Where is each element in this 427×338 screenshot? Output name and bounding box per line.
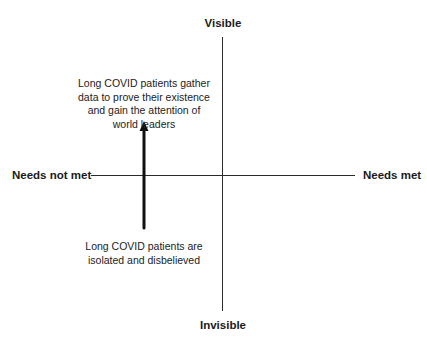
axis-label-visible: Visible (0, 16, 427, 30)
axis-label-invisible: Invisible (0, 318, 427, 332)
annotation-isolated: Long COVID patients are isolated and dis… (74, 240, 214, 267)
quadrant-diagram: Visible Invisible Needs not met Needs me… (0, 0, 427, 338)
axis-label-needs-not-met: Needs not met (12, 168, 91, 182)
axis-label-needs-met: Needs met (363, 168, 421, 182)
annotation-gather-data: Long COVID patients gather data to prove… (74, 77, 214, 131)
